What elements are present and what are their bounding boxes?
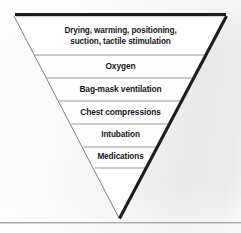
tier-label-oxygen: Oxygen	[50, 61, 191, 72]
tier-label-chest-compressions: Chest compressions	[74, 107, 167, 118]
tier-label-medications: Medications	[93, 152, 148, 163]
tier-label-bag-mask-ventilation: Bag-mask ventilation	[62, 84, 179, 95]
tier-label-drying: Drying, warming, positioning, suction, t…	[38, 26, 203, 47]
bottom-divider-rule-highlight	[0, 223, 241, 224]
figure-canvas: Drying, warming, positioning, suction, t…	[0, 0, 241, 233]
tier-label-intubation: Intubation	[86, 130, 155, 141]
